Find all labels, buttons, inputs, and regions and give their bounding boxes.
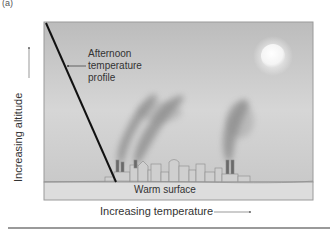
bottom-divider	[8, 227, 330, 229]
profile-label-line-1: Afternoon	[88, 48, 142, 60]
ground-label: Warm surface	[0, 184, 330, 195]
profile-label-line-3: profile	[88, 72, 142, 84]
sun-icon	[253, 36, 293, 76]
profile-label-line-2: temperature	[88, 60, 142, 72]
profile-annotation: Afternoon temperature profile	[88, 48, 142, 84]
y-axis-label: Increasing altitude	[12, 42, 26, 182]
diagram-canvas	[0, 0, 330, 230]
x-axis-label: Increasing temperature	[100, 205, 213, 217]
